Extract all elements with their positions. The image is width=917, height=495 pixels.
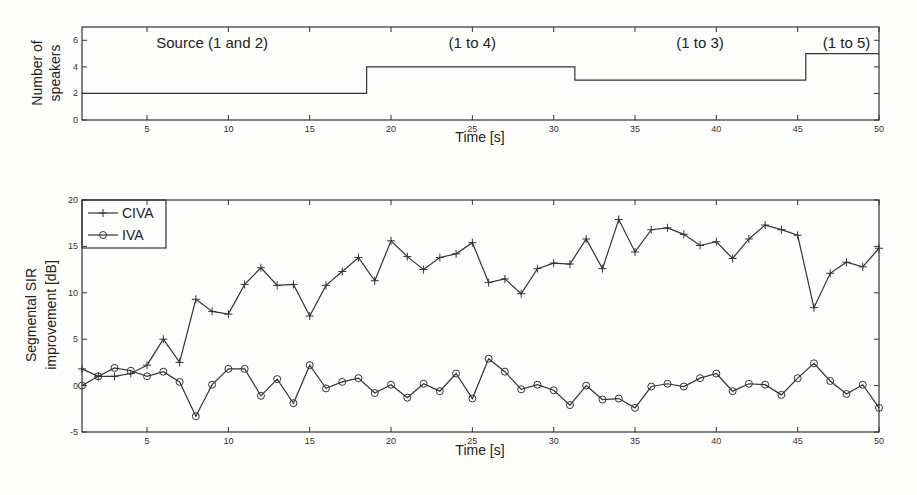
legend-civa-label: CIVA	[122, 205, 154, 221]
bottom-ytick-label: 10	[68, 288, 78, 298]
bottom-xtick-label: 5	[145, 436, 150, 446]
top-xtick-label: 20	[386, 124, 396, 134]
segment-annotation: Source (1 and 2)	[156, 34, 268, 51]
top-xtick-label: 45	[793, 124, 803, 134]
sir-chart: 5101520253035404550-505101520 Time [s] S…	[23, 195, 884, 458]
top-xtick-label: 40	[711, 124, 721, 134]
civa-point	[371, 277, 379, 285]
civa-point	[794, 231, 802, 239]
civa-point	[111, 372, 119, 380]
top-xtick-label: 35	[630, 124, 640, 134]
bottom-xtick-label: 10	[223, 436, 233, 446]
bottom-plot-frame	[82, 200, 879, 432]
civa-point	[696, 241, 704, 249]
civa-point	[777, 226, 785, 234]
civa-point	[582, 235, 590, 243]
bottom-ytick-label: 0	[73, 381, 78, 391]
bottom-xtick-label: 15	[305, 436, 315, 446]
bottom-ylabel-line1: Segmental SIR	[23, 268, 39, 362]
bottom-xtick-label: 40	[711, 436, 721, 446]
segment-annotation: (1 to 5)	[823, 34, 871, 51]
series-speakers	[82, 54, 879, 94]
bottom-ytick-label: 20	[68, 195, 78, 205]
civa-point	[485, 279, 493, 287]
top-ylabel-line1: Number of	[29, 40, 45, 105]
top-ytick-label: 6	[73, 35, 78, 45]
bottom-xtick-label: 45	[793, 436, 803, 446]
legend-iva-label: IVA	[122, 227, 144, 243]
civa-point	[550, 259, 558, 267]
top-ytick-label: 0	[73, 115, 78, 125]
bottom-ylabel-line2: improvement [dB]	[43, 260, 59, 370]
top-ytick-label: 4	[73, 62, 78, 72]
civa-point	[810, 304, 818, 312]
top-ylabel-line2: speakers	[47, 45, 63, 102]
civa-point	[680, 230, 688, 238]
bottom-xtick-label: 30	[549, 436, 559, 446]
bottom-ytick-label: -5	[70, 427, 78, 437]
civa-point	[664, 224, 672, 232]
top-xtick-label: 10	[223, 124, 233, 134]
civa-point	[842, 258, 850, 266]
legend-civa-marker	[99, 209, 107, 217]
civa-point	[631, 248, 639, 256]
civa-point	[598, 265, 606, 273]
segment-annotation: (1 to 4)	[449, 34, 497, 51]
bottom-xtick-label: 35	[630, 436, 640, 446]
top-xlabel: Time [s]	[455, 129, 504, 145]
series-iva-line	[82, 359, 879, 417]
top-xtick-label: 5	[145, 124, 150, 134]
figure: 51015202530354045500246 Source (1 and 2)…	[0, 0, 917, 495]
civa-point	[224, 310, 232, 318]
top-xtick-label: 30	[549, 124, 559, 134]
civa-point	[176, 358, 184, 366]
civa-point	[647, 226, 655, 234]
bottom-ytick-label: 5	[73, 334, 78, 344]
civa-point	[615, 215, 623, 223]
segment-annotation: (1 to 3)	[676, 34, 724, 51]
series-civa-line	[82, 219, 879, 376]
civa-point	[289, 280, 297, 288]
civa-point	[468, 239, 476, 247]
civa-point	[533, 265, 541, 273]
bottom-ytick-label: 15	[68, 241, 78, 251]
civa-point	[452, 250, 460, 258]
civa-point	[78, 365, 86, 373]
bottom-xlabel: Time [s]	[455, 442, 504, 458]
legend: CIVA IVA	[82, 200, 166, 248]
civa-point	[826, 269, 834, 277]
civa-point	[306, 312, 314, 320]
top-ytick-label: 2	[73, 88, 78, 98]
civa-point	[143, 361, 151, 369]
speakers-chart: 51015202530354045500246 Source (1 and 2)…	[29, 27, 884, 145]
top-xtick-label: 50	[874, 124, 884, 134]
top-xtick-label: 15	[305, 124, 315, 134]
civa-point	[159, 335, 167, 343]
civa-point	[566, 260, 574, 268]
bottom-xtick-label: 50	[874, 436, 884, 446]
bottom-xtick-label: 20	[386, 436, 396, 446]
